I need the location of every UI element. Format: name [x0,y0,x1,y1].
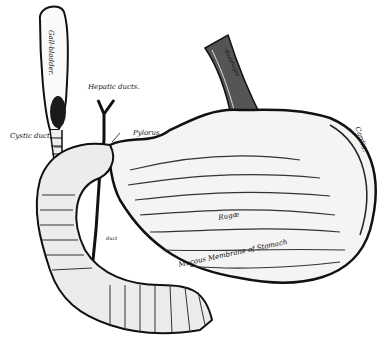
hepatic-ducts [92,100,114,270]
hepatic-ducts-label: Hepatic ducts. [88,84,140,91]
cystic-duct-label: Cystic duct. [10,133,52,140]
stomach-drawing [0,0,390,341]
anatomical-illustration: Gall-bladder. Hepatic ducts. Cystic duct… [0,0,390,341]
pylorus-label: Pylorus. [133,130,162,137]
pancreatic-duct-label: duct [106,236,117,241]
esophagus [205,35,262,120]
gall-bladder-label: Gall-bladder. [47,30,54,75]
